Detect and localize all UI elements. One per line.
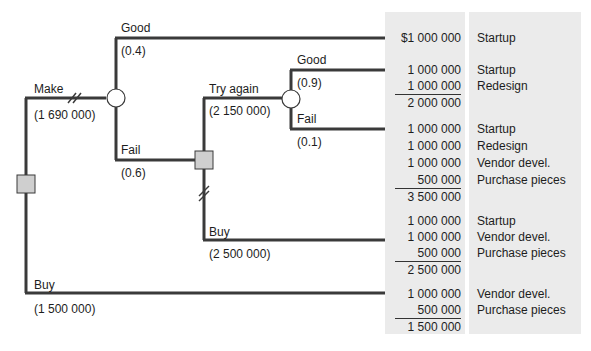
branch-fail-prob: (0.6) xyxy=(121,166,146,180)
branch-try-again-value: (2 150 000) xyxy=(209,104,270,118)
outcome-amount: 1 000 000 xyxy=(385,79,461,93)
outcome-amount: 1 000 000 xyxy=(385,122,461,136)
outcome-amount: 1 000 000 xyxy=(385,156,461,170)
chance-node-try-again xyxy=(282,90,300,108)
outcome-total: 2 000 000 xyxy=(385,96,461,110)
decision-node-root xyxy=(17,175,35,193)
outcome-total: 1 500 000 xyxy=(385,320,461,334)
sum-rule xyxy=(395,318,461,319)
outcome-amount: 1 000 000 xyxy=(385,287,461,301)
branch-good2-prob: (0.9) xyxy=(297,76,322,90)
outcome-amount: 500 000 xyxy=(385,173,461,187)
branch-fail-label: Fail xyxy=(121,143,140,157)
outcome-amount: 500 000 xyxy=(385,303,461,317)
outcome-amount: $1 000 000 xyxy=(385,31,461,45)
outcome-desc: Vendor devel. xyxy=(477,156,550,170)
outcome-amount: 1 000 000 xyxy=(385,63,461,77)
outcome-desc: Startup xyxy=(477,63,516,77)
outcome-desc: Purchase pieces xyxy=(477,173,566,187)
branch-buy-value: (1 500 000) xyxy=(34,302,95,316)
outcome-desc: Startup xyxy=(477,122,516,136)
outcome-desc: Vendor devel. xyxy=(477,287,550,301)
branch-good2-label: Good xyxy=(297,53,326,67)
outcome-desc: Vendor devel. xyxy=(477,230,550,244)
branch-fail2-prob: (0.1) xyxy=(297,135,322,149)
outcome-desc: Redesign xyxy=(477,79,528,93)
outcome-amount: 1 000 000 xyxy=(385,214,461,228)
branch-good-label: Good xyxy=(121,21,150,35)
outcome-desc: Purchase pieces xyxy=(477,303,566,317)
decision-node-fail xyxy=(195,151,213,169)
branch-make-value: (1 690 000) xyxy=(34,108,95,122)
branch-good-prob: (0.4) xyxy=(121,44,146,58)
sum-rule xyxy=(395,261,461,262)
branch-fail2-label: Fail xyxy=(297,112,316,126)
branch-try-again-label: Try again xyxy=(209,82,259,96)
branch-buy2-value: (2 500 000) xyxy=(209,247,270,261)
branch-make-label: Make xyxy=(34,82,63,96)
outcome-amount: 500 000 xyxy=(385,246,461,260)
chance-node-make xyxy=(107,89,125,107)
outcome-desc: Startup xyxy=(477,31,516,45)
outcome-amount: 1 000 000 xyxy=(385,139,461,153)
outcome-desc: Redesign xyxy=(477,139,528,153)
outcome-amount: 1 000 000 xyxy=(385,230,461,244)
outcome-total: 3 500 000 xyxy=(385,190,461,204)
outcome-desc: Purchase pieces xyxy=(477,246,566,260)
sum-rule xyxy=(395,94,461,95)
branch-buy-label: Buy xyxy=(34,278,55,292)
branch-buy2-label: Buy xyxy=(209,225,230,239)
outcome-desc: Startup xyxy=(477,214,516,228)
outcome-total: 2 500 000 xyxy=(385,263,461,277)
sum-rule xyxy=(395,188,461,189)
